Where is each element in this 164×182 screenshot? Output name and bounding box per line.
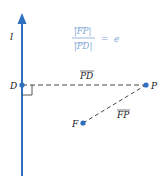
eccentricity-formula: |FP| |PD| = e xyxy=(72,26,119,52)
point-p xyxy=(143,82,148,87)
line-label: l xyxy=(10,31,13,42)
focus-directrix-diagram: l |FP| |PD| = e PD FP D P F xyxy=(0,0,164,182)
segment-fp-label: FP xyxy=(116,110,130,120)
arrow-up-icon xyxy=(18,13,27,24)
point-p-label: P xyxy=(150,81,158,91)
point-d-label: D xyxy=(9,81,17,91)
formula-rhs: e xyxy=(114,34,119,44)
directrix-line xyxy=(18,13,27,176)
formula-equals: = xyxy=(101,34,109,44)
point-f xyxy=(80,120,85,125)
point-f-label: F xyxy=(71,119,79,129)
segment-fp xyxy=(83,85,146,123)
formula-numerator: |FP| xyxy=(74,26,91,37)
segment-pd-label: PD xyxy=(79,71,93,81)
formula-denominator: |PD| xyxy=(74,41,92,52)
point-d xyxy=(19,82,24,87)
